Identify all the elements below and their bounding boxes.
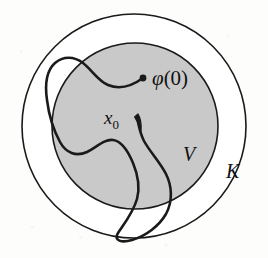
- label-x-zero: x0: [104, 108, 119, 131]
- phi-argument: (0): [164, 66, 189, 90]
- phi-zero-dot: [140, 75, 147, 82]
- phi-symbol: φ: [152, 66, 164, 90]
- label-phi-zero: φ(0): [152, 68, 188, 89]
- label-K: K: [226, 161, 239, 181]
- label-V: V: [183, 144, 195, 164]
- math-figure: [0, 0, 268, 258]
- x-subscript: 0: [112, 117, 119, 132]
- inner-disk-V: [52, 43, 218, 209]
